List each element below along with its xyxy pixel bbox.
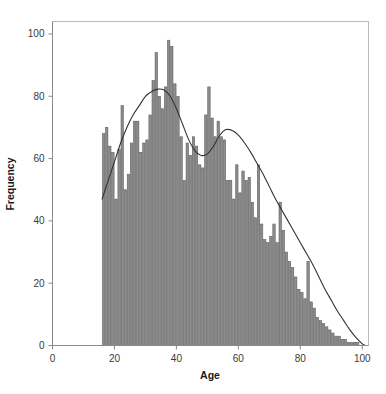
y-tick-label: 80	[33, 91, 45, 102]
histogram-bar	[198, 165, 200, 346]
histogram-bar	[143, 143, 145, 346]
histogram-plot: 020406080100 020406080100 Age Frequency	[0, 0, 386, 394]
histogram-bar	[276, 243, 278, 346]
histogram-bar	[208, 87, 210, 346]
histogram-bar	[295, 277, 297, 346]
histogram-figure: 020406080100 020406080100 Age Frequency	[0, 0, 386, 394]
histogram-bar	[161, 109, 163, 346]
histogram-bar	[102, 134, 104, 346]
histogram-bar	[112, 152, 114, 345]
histogram-bar	[202, 168, 204, 346]
histogram-bar	[217, 121, 219, 345]
histogram-bar	[313, 308, 315, 345]
y-axis-title: Frequency	[4, 157, 16, 210]
x-tick-label: 100	[354, 353, 371, 364]
histogram-bar	[316, 317, 318, 345]
histogram-bar	[211, 118, 213, 345]
y-tick-label: 20	[33, 278, 45, 289]
histogram-bar	[257, 165, 259, 346]
histogram-bar	[338, 336, 340, 345]
histogram-bar	[233, 199, 235, 345]
histogram-bar	[167, 40, 169, 345]
histogram-bar	[192, 137, 194, 346]
histogram-bar	[307, 261, 309, 345]
histogram-bar	[285, 252, 287, 345]
histogram-bar	[229, 180, 231, 345]
histogram-bar	[124, 190, 126, 346]
histogram-bar	[220, 137, 222, 346]
y-tick-label: 0	[39, 340, 45, 351]
histogram-bar	[264, 240, 266, 346]
histogram-bar	[174, 84, 176, 346]
histogram-bar	[319, 321, 321, 346]
histogram-bar	[155, 53, 157, 346]
y-tick-label: 60	[33, 153, 45, 164]
x-tick-label: 80	[295, 353, 307, 364]
x-tick-label: 0	[50, 353, 56, 364]
histogram-bar	[341, 339, 343, 345]
histogram-bar	[239, 193, 241, 346]
histogram-bar	[310, 302, 312, 346]
x-axis-title: Age	[200, 369, 220, 381]
histogram-bar	[251, 202, 253, 345]
histogram-bar	[245, 180, 247, 345]
histogram-bar	[288, 261, 290, 345]
histogram-bar	[195, 146, 197, 345]
histogram-bar	[133, 121, 135, 345]
histogram-bar	[115, 199, 117, 345]
histogram-bar	[205, 115, 207, 346]
histogram-bar	[267, 243, 269, 346]
histogram-bar	[127, 174, 129, 345]
histogram-bar	[158, 96, 160, 345]
histogram-bar	[137, 121, 139, 345]
x-tick-label: 60	[233, 353, 245, 364]
histogram-bar	[273, 224, 275, 346]
histogram-bar	[329, 330, 331, 346]
y-tick-label: 40	[33, 215, 45, 226]
histogram-bar	[248, 177, 250, 345]
histogram-bar	[189, 155, 191, 345]
histogram-bar	[344, 339, 346, 345]
histogram-bar	[304, 299, 306, 346]
histogram-bar	[325, 327, 327, 346]
histogram-bar	[214, 137, 216, 346]
histogram-bar	[301, 293, 303, 346]
histogram-bar	[152, 81, 154, 346]
histogram-bar	[322, 324, 324, 346]
histogram-bar	[118, 149, 120, 345]
histogram-bar	[254, 218, 256, 346]
histogram-bar	[140, 152, 142, 345]
histogram-bar	[180, 137, 182, 346]
histogram-bar	[186, 143, 188, 346]
histogram-bar	[236, 165, 238, 346]
histogram-bar	[335, 336, 337, 345]
histogram-bar	[149, 115, 151, 346]
histogram-bar	[298, 289, 300, 345]
histogram-bar	[282, 230, 284, 345]
x-tick-label: 40	[171, 353, 183, 364]
histogram-bar	[106, 127, 108, 345]
histogram-bar	[146, 140, 148, 346]
y-tick-label: 100	[28, 28, 45, 39]
histogram-bar	[177, 96, 179, 345]
histogram-bar	[183, 180, 185, 345]
histogram-bar	[332, 333, 334, 345]
histogram-bar	[223, 140, 225, 346]
x-tick-label: 20	[109, 353, 121, 364]
histogram-bar	[260, 224, 262, 346]
histogram-bar	[279, 202, 281, 345]
histogram-bar	[226, 180, 228, 345]
histogram-bar	[164, 87, 166, 346]
histogram-bar	[171, 46, 173, 345]
histogram-bar	[291, 268, 293, 346]
histogram-bar	[242, 171, 244, 345]
histogram-bar	[270, 236, 272, 345]
histogram-bar	[130, 143, 132, 346]
